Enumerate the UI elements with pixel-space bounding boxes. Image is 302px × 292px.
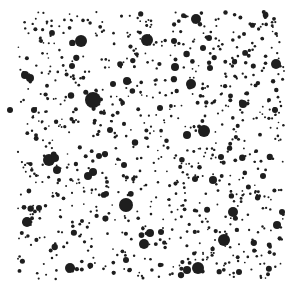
dot [27, 123, 29, 125]
dot [93, 121, 97, 125]
dot [33, 210, 37, 214]
dot [272, 31, 274, 33]
dot [130, 238, 133, 241]
dot [87, 249, 89, 251]
dot [269, 109, 271, 111]
dot [233, 128, 236, 131]
dot [80, 234, 82, 236]
dot [278, 112, 280, 114]
dot [40, 93, 42, 95]
dot [52, 139, 54, 141]
dot [171, 76, 177, 82]
dot [89, 267, 91, 269]
dot [186, 173, 189, 176]
dot [80, 268, 84, 272]
dot [115, 147, 118, 150]
dot [95, 11, 97, 13]
dot [69, 13, 71, 15]
dot [33, 27, 37, 31]
dot [199, 148, 201, 150]
dot [90, 149, 94, 153]
dot [108, 66, 110, 68]
dot [157, 62, 161, 66]
dot [238, 179, 240, 181]
dot [139, 20, 141, 22]
dot [121, 249, 125, 253]
dot [236, 193, 238, 195]
dot [251, 42, 254, 45]
dot [31, 130, 33, 132]
dot [34, 238, 38, 242]
dot [85, 92, 101, 108]
dot [231, 138, 233, 140]
dot [244, 262, 246, 264]
dot [169, 108, 171, 110]
dot [181, 105, 183, 107]
dot [139, 170, 142, 173]
dot [274, 114, 276, 116]
dot [232, 59, 234, 61]
dot [175, 154, 178, 157]
dot [175, 11, 177, 13]
dot [215, 25, 217, 27]
dot [239, 155, 245, 161]
dot [193, 208, 197, 212]
dot [39, 237, 41, 239]
dot [144, 128, 148, 132]
dot [166, 243, 168, 245]
dot [183, 131, 191, 139]
dot [76, 169, 79, 172]
dot [75, 119, 77, 121]
dot [217, 189, 220, 192]
dot [235, 131, 237, 133]
dot [24, 27, 26, 29]
dot [42, 12, 44, 14]
dot [127, 219, 130, 222]
dot [21, 161, 23, 163]
dot [102, 267, 105, 270]
dot [204, 152, 206, 154]
dot [262, 207, 265, 210]
dot [236, 269, 242, 275]
dot [266, 266, 272, 272]
dot [111, 113, 115, 117]
dot [46, 53, 48, 55]
dot [254, 192, 256, 194]
dot [231, 38, 235, 42]
dot [250, 23, 255, 28]
dot [186, 230, 189, 233]
dot [149, 132, 151, 134]
dot [32, 115, 34, 117]
dot [198, 125, 210, 137]
dot [62, 32, 64, 34]
dot [18, 255, 21, 258]
dot [279, 139, 281, 141]
dot [199, 94, 203, 98]
dot [211, 102, 214, 105]
dot [76, 183, 78, 185]
dot [71, 192, 73, 194]
dot [177, 181, 179, 183]
dot [37, 11, 39, 13]
dot [112, 248, 114, 250]
dot [214, 99, 217, 102]
dot [224, 262, 227, 265]
dot [49, 70, 51, 72]
dot [57, 178, 61, 182]
dot [229, 175, 231, 177]
dot [203, 25, 205, 27]
dot [153, 162, 155, 164]
dot [95, 188, 97, 190]
dot [277, 73, 279, 75]
dot [135, 48, 137, 50]
dot [125, 179, 127, 181]
dot [79, 77, 81, 79]
dot [48, 125, 50, 127]
dot [220, 174, 224, 178]
dot [65, 70, 67, 72]
dot [235, 228, 239, 232]
dot [190, 127, 192, 129]
dot [282, 161, 284, 163]
dot [192, 150, 195, 153]
dot [104, 66, 106, 68]
